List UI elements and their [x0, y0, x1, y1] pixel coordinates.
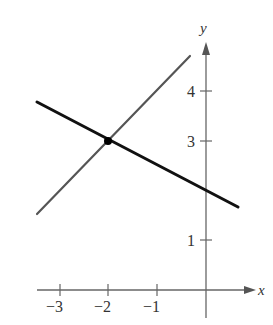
y-axis-label: y	[198, 20, 207, 36]
x-tick-label: −1	[143, 298, 160, 315]
chart: x y −3 −2 −1 1 3 4	[0, 0, 273, 325]
line-y-equals-neg-half-x-plus-2	[37, 102, 238, 207]
intersection-point	[104, 137, 112, 145]
y-tick-label: 4	[187, 83, 195, 100]
x-axis-arrow-icon	[244, 286, 256, 294]
line-y-equals-x-plus-5	[37, 56, 190, 214]
y-tick-label: 1	[187, 232, 195, 249]
x-tick-label: −2	[94, 298, 111, 315]
x-tick-label: −3	[46, 298, 63, 315]
chart-svg: x y −3 −2 −1 1 3 4	[0, 0, 273, 325]
x-axis-label: x	[257, 282, 265, 298]
y-axis-arrow-icon	[202, 42, 210, 55]
y-tick-label: 3	[187, 133, 195, 150]
